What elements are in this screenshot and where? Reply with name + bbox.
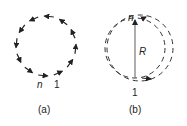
ring-arrow-icon [71,30,75,39]
ring-arrow-icon [60,19,68,25]
figure: n 1 (a) n R 1 (b) [0,0,187,126]
panel-b-label-1: 1 [132,87,138,98]
ring-arrow-icon [67,60,73,68]
panel-b-label-n: n [128,12,134,23]
ring-arrow-icon [17,54,21,63]
ring-arrow-icon [44,16,53,17]
ring-arrow-icon [25,67,33,73]
ring-arrow-icon [75,44,76,53]
panel-a-caption: (a) [38,104,50,115]
bottom-arrow-icon [142,78,151,79]
panel-b-label-R: R [139,46,146,57]
panel-b-caption: (b) [129,104,141,115]
top-arrow-icon [142,17,146,19]
ring-arrow-icon [54,71,63,75]
ring-arrow-icon [30,17,39,21]
ring-arrow-icon [19,25,25,33]
ring-arrow-icon [38,75,47,76]
panel-a-label-1: 1 [54,79,60,90]
panel-a [16,16,76,76]
panel-a-label-n: n [37,79,43,90]
ring-arrow-icon [16,38,17,47]
